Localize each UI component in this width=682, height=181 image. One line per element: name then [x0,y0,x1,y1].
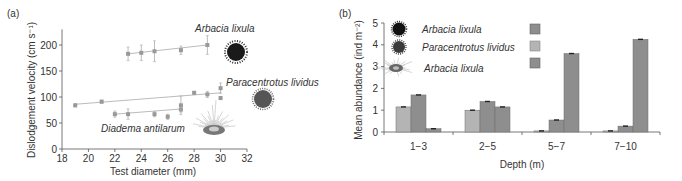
panel-a-label: (a) [7,8,19,19]
panel-b-y-label: Mean abundance (ind m⁻²) [353,20,364,140]
panel-b-bars [396,39,648,132]
x-category-label: 2−5 [479,141,496,152]
series-arbacia-lixula [126,36,209,62]
data-point [100,100,104,104]
x-category-label: 1−3 [410,141,427,152]
y-tick-label: 0 [372,127,378,138]
bar [564,54,579,132]
x-category-label: 5−7 [548,141,565,152]
legend-swatch-3 [530,58,540,68]
y-tick-label: 0 [51,144,57,155]
y-tick-label: 3 [372,61,378,72]
y-tick-label: 2 [372,83,378,94]
legend-icon-paracentrotus [392,40,406,54]
x-tick-label: 24 [136,153,148,164]
y-tick-label: 50 [46,118,58,129]
bar [549,120,564,132]
data-point [126,112,130,116]
bar [465,110,480,132]
x-tick-label: 22 [109,153,121,164]
y-tick-label: 200 [40,40,57,51]
legend-label-3: Arbacia lixula [423,63,484,74]
x-category-label: 7−10 [614,141,637,152]
data-point [219,96,223,100]
x-tick-label: 28 [189,153,201,164]
data-point [153,49,157,53]
annotation-arbacia: Arbacia lixula [194,23,255,34]
annotation-diadema: Diadema antilarum [101,123,185,134]
y-tick-label: 5 [372,18,378,29]
series-paracentrotus-lividus [73,83,222,107]
data-point [179,103,183,107]
series-diadema-antilarum [113,96,183,119]
x-tick-label: 18 [56,153,68,164]
data-point [139,51,143,55]
data-point [126,52,130,56]
y-tick-label: 100 [40,92,57,103]
data-point [205,43,209,47]
data-point [179,48,183,52]
panel-b-legend: Arbacia lixula Paracentrotus lividus Arb… [377,22,540,77]
data-point [73,103,77,107]
data-point [153,112,157,116]
x-tick-label: 26 [162,153,174,164]
panel-a-data [73,36,222,120]
legend-icon-arbacia [392,22,407,37]
x-tick-label: 32 [241,153,253,164]
data-point [166,115,170,119]
annotation-paracentrotus: Paracentrotus lividus [226,77,319,88]
bar [480,101,495,132]
y-tick-label: 4 [372,39,378,50]
panel-b-x-label: Depth (m) [500,159,544,170]
data-point [192,91,196,95]
panel-a-x-label: Test diameter (mm) [110,166,196,177]
legend-swatch-1 [530,24,540,34]
bar [495,107,510,132]
y-tick-label: 1 [372,105,378,116]
panel-a-y-label: Dislodgement velocity (cm s⁻¹) [26,22,37,158]
y-tick-label: 150 [40,66,57,77]
bar [618,126,633,132]
arbacia-urchin-icon [225,41,247,63]
panel-b: (b) Mean abundance (ind m⁻²) Depth (m) 0… [339,8,660,170]
diadema-urchin-icon [193,100,235,135]
panel-b-label: (b) [339,8,351,19]
x-tick-label: 20 [83,153,95,164]
legend-label-2: Paracentrotus lividus [422,42,515,53]
x-tick-label: 30 [215,153,227,164]
data-point [219,86,223,90]
panel-a: (a) Dislodgement velocity (cm s⁻¹) Test … [7,8,319,177]
bar [396,107,411,132]
legend-label-1: Arbacia lixula [421,24,482,35]
data-point [205,92,209,96]
bar [633,39,648,132]
bar [411,95,426,132]
data-point [113,112,117,116]
paracentrotus-urchin-icon [253,89,274,110]
figure: (a) Dislodgement velocity (cm s⁻¹) Test … [0,0,682,181]
legend-swatch-2 [530,41,540,51]
